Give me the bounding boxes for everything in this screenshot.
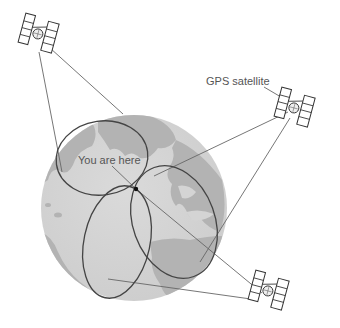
globe: [40, 112, 227, 304]
you-are-here-label: You are here: [78, 154, 141, 166]
gps-satellite-label: GPS satellite: [206, 75, 270, 87]
gps-trilateration-diagram: You are here GPS satellite: [0, 0, 340, 328]
position-dot: [134, 187, 138, 191]
satellite-right-icon: [274, 87, 316, 127]
satellite-top-left-icon: [18, 13, 60, 53]
satellite-bottom-right-icon: [248, 270, 290, 310]
